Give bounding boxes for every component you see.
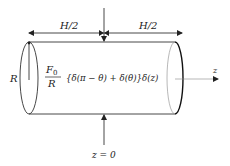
formula-denominator: R bbox=[47, 78, 56, 89]
half-length-left-label: H/2 bbox=[59, 20, 78, 31]
origin-label: z = 0 bbox=[91, 150, 116, 160]
radius-point bbox=[28, 42, 31, 45]
formula-expression: {δ(π − θ) + δ(θ)}δ(z) bbox=[66, 73, 158, 83]
formula-numerator: F0 bbox=[45, 64, 57, 77]
load-formula: F0 R {δ(π − θ) + δ(θ)}δ(z) bbox=[45, 64, 158, 89]
right-end-back-arc bbox=[167, 42, 175, 114]
z-axis-label: z bbox=[212, 66, 218, 75]
radius-label: R bbox=[9, 73, 18, 84]
half-length-right-label: H/2 bbox=[138, 20, 157, 31]
right-end-front-arc bbox=[175, 42, 183, 114]
cylinder-diagram: H/2 H/2 R z z = 0 F0 R {δ(π − θ) + δ(θ)}… bbox=[0, 0, 230, 166]
